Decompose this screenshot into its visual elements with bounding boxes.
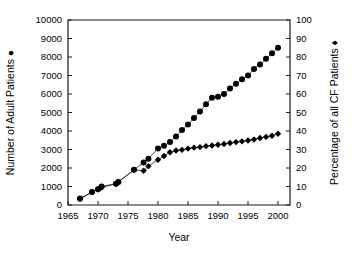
data-point-adult-patients bbox=[185, 122, 191, 128]
right-axis-tick-label: 80 bbox=[296, 51, 307, 62]
right-axis-tick-label: 10 bbox=[296, 181, 307, 192]
data-point-adult-patients bbox=[233, 81, 239, 87]
data-point-percentage-cf bbox=[221, 141, 227, 147]
data-point-percentage-cf bbox=[131, 167, 137, 173]
right-axis-tick-label: 30 bbox=[296, 144, 307, 155]
data-point-percentage-cf bbox=[251, 136, 257, 142]
right-axis-tick-label: 20 bbox=[296, 162, 307, 173]
data-point-percentage-cf bbox=[257, 135, 263, 141]
data-point-adult-patients bbox=[215, 94, 221, 100]
data-point-percentage-cf bbox=[233, 139, 239, 145]
data-point-adult-patients bbox=[209, 95, 215, 101]
data-point-adult-patients bbox=[245, 73, 251, 79]
data-point-percentage-cf bbox=[227, 140, 233, 146]
right-axis-tick-label: 90 bbox=[296, 33, 307, 44]
right-axis-tick-label: 50 bbox=[296, 107, 307, 118]
data-point-adult-patients bbox=[141, 159, 147, 165]
left-axis-tick-label: 0 bbox=[57, 199, 62, 210]
left-axis-tick-label: 3000 bbox=[41, 144, 62, 155]
data-point-percentage-cf bbox=[161, 153, 167, 159]
right-axis-tick-label: 60 bbox=[296, 88, 307, 99]
left-axis-title: Number of Adult Patients ● bbox=[4, 50, 16, 175]
data-point-adult-patients bbox=[145, 156, 151, 162]
data-point-percentage-cf bbox=[239, 138, 245, 144]
data-point-adult-patients bbox=[221, 91, 227, 97]
data-point-adult-patients bbox=[227, 85, 233, 91]
data-point-percentage-cf bbox=[269, 133, 275, 139]
data-point-adult-patients bbox=[167, 139, 173, 145]
chart-container: 0100020003000400050006000700080009000100… bbox=[0, 0, 352, 260]
data-point-adult-patients bbox=[239, 76, 245, 82]
left-axis-tick-label: 1000 bbox=[41, 181, 62, 192]
data-point-percentage-cf bbox=[173, 147, 179, 153]
x-axis-tick-label: 1990 bbox=[207, 210, 228, 221]
data-point-adult-patients bbox=[203, 101, 209, 107]
series-line-adult-patients bbox=[80, 48, 278, 199]
data-point-adult-patients bbox=[173, 134, 179, 140]
series-line-percentage-cf bbox=[80, 134, 278, 199]
data-point-percentage-cf bbox=[215, 141, 221, 147]
data-point-adult-patients bbox=[263, 56, 269, 62]
x-axis-tick-label: 1985 bbox=[177, 210, 198, 221]
x-axis-tick-label: 1970 bbox=[87, 210, 108, 221]
data-point-adult-patients bbox=[251, 66, 257, 72]
x-axis-tick-label: 1965 bbox=[57, 210, 78, 221]
x-axis-tick-label: 1975 bbox=[117, 210, 138, 221]
right-axis-tick-label: 70 bbox=[296, 70, 307, 81]
data-point-percentage-cf bbox=[203, 143, 209, 149]
x-axis-tick-label: 2000 bbox=[267, 210, 288, 221]
right-axis-tick-label: 100 bbox=[296, 14, 312, 25]
chart-svg: 0100020003000400050006000700080009000100… bbox=[0, 0, 352, 260]
data-point-percentage-cf bbox=[185, 145, 191, 151]
data-point-adult-patients bbox=[161, 143, 167, 149]
data-point-percentage-cf bbox=[245, 137, 251, 143]
data-point-adult-patients bbox=[197, 109, 203, 115]
x-axis-tick-label: 1995 bbox=[237, 210, 258, 221]
left-axis-tick-label: 8000 bbox=[41, 51, 62, 62]
left-axis-tick-label: 4000 bbox=[41, 125, 62, 136]
data-point-adult-patients bbox=[155, 146, 161, 152]
axis-frame bbox=[68, 20, 290, 205]
left-axis-tick-label: 6000 bbox=[41, 88, 62, 99]
data-point-adult-patients bbox=[191, 115, 197, 121]
x-axis-title: Year bbox=[168, 231, 190, 243]
left-axis-tick-label: 10000 bbox=[36, 14, 62, 25]
right-axis-title: Percentage of all CF Patients ♦ bbox=[328, 39, 340, 184]
right-axis-tick-label: 40 bbox=[296, 125, 307, 136]
left-axis-tick-label: 7000 bbox=[41, 70, 62, 81]
left-axis-tick-label: 5000 bbox=[41, 107, 62, 118]
right-axis-tick-label: 0 bbox=[296, 199, 301, 210]
data-point-adult-patients bbox=[179, 127, 185, 133]
data-point-adult-patients bbox=[269, 50, 275, 56]
data-point-percentage-cf bbox=[275, 131, 281, 137]
data-point-percentage-cf bbox=[179, 147, 185, 153]
data-point-adult-patients bbox=[275, 45, 281, 51]
data-point-adult-patients bbox=[257, 61, 263, 67]
left-axis-tick-label: 9000 bbox=[41, 33, 62, 44]
data-point-percentage-cf bbox=[167, 149, 173, 155]
data-point-percentage-cf bbox=[191, 144, 197, 150]
data-point-percentage-cf bbox=[209, 142, 215, 148]
data-point-percentage-cf bbox=[263, 134, 269, 140]
x-axis-tick-label: 1980 bbox=[147, 210, 168, 221]
left-axis-tick-label: 2000 bbox=[41, 162, 62, 173]
data-point-percentage-cf bbox=[197, 144, 203, 150]
data-point-percentage-cf bbox=[89, 189, 95, 195]
data-point-percentage-cf bbox=[155, 156, 161, 162]
